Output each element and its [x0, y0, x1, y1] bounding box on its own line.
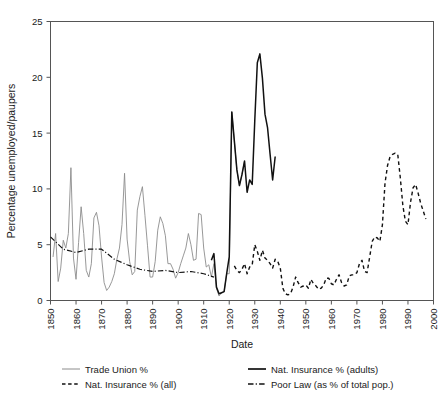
x-tick-label: 1950	[300, 309, 311, 330]
chart-legend: Trade Union %Nat. Insurance % (adults)Na…	[62, 364, 394, 390]
y-tick-label: 20	[32, 72, 43, 83]
x-tick-label: 1980	[377, 309, 388, 330]
x-tick-label: 1960	[326, 309, 337, 330]
x-axis-ticks: 1850186018701880189019001910192019301940…	[45, 301, 439, 330]
x-tick-label: 1890	[147, 309, 158, 330]
y-tick-label: 10	[32, 183, 43, 194]
legend-label-1: Nat. Insurance % (adults)	[271, 364, 378, 375]
legend-label-2: Nat. Insurance % (all)	[85, 379, 176, 390]
legend-label-3: Poor Law (as % of total pop.)	[271, 379, 394, 390]
series-line-0	[53, 112, 245, 296]
y-axis-label: Percentage unemployed/paupers	[5, 84, 17, 239]
x-tick-label: 1920	[224, 309, 235, 330]
x-tick-label: 1970	[351, 309, 362, 330]
x-tick-label: 1850	[45, 309, 56, 330]
x-tick-label: 1930	[249, 309, 260, 330]
y-tick-label: 5	[37, 239, 42, 250]
legend-label-0: Trade Union %	[85, 364, 149, 375]
x-tick-label: 1900	[173, 309, 184, 330]
x-axis-label: Date	[231, 338, 253, 350]
y-tick-label: 25	[32, 16, 43, 27]
chart-figure: 0510152025 18501860187018801890190019101…	[0, 0, 447, 401]
plot-frame	[51, 22, 434, 301]
data-series-group	[51, 54, 426, 296]
y-tick-label: 0	[37, 295, 42, 306]
series-line-2	[234, 153, 426, 295]
x-tick-label: 1940	[275, 309, 286, 330]
x-tick-label: 2000	[428, 309, 439, 330]
unemployment-line-chart: 0510152025 18501860187018801890190019101…	[0, 0, 447, 401]
y-axis-ticks: 0510152025	[32, 16, 51, 306]
x-tick-label: 1910	[198, 309, 209, 330]
y-tick-label: 15	[32, 128, 43, 139]
x-tick-label: 1870	[96, 309, 107, 330]
x-tick-label: 1990	[402, 309, 413, 330]
x-tick-label: 1860	[71, 309, 82, 330]
x-tick-label: 1880	[122, 309, 133, 330]
